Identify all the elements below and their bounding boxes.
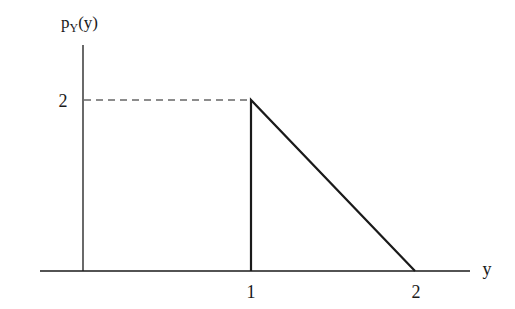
- x-axis-label: y: [483, 259, 492, 279]
- x-tick-label-2: 2: [412, 282, 421, 302]
- pdf-chart: pY(y) 2 1 2 y: [0, 0, 515, 309]
- density-curve: [251, 100, 415, 271]
- y-axis-label: pY(y): [61, 13, 98, 35]
- x-tick-label-1: 1: [247, 282, 256, 302]
- y-tick-label-2: 2: [59, 91, 68, 111]
